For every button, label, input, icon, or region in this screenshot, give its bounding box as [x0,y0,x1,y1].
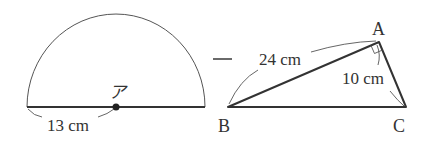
radius-brace [28,109,42,117]
vertex-c-label: C [393,116,405,136]
radius-label: 13 cm [47,116,89,135]
radius-brace-right [98,109,114,117]
vertex-a-label: A [372,19,385,39]
side-ab-label: 24 cm [259,50,301,69]
diagram-canvas: ア 13 cm 24 cm 10 cm A B C [0,0,432,142]
ac-brace-top [377,45,379,65]
side-ac-label: 10 cm [342,69,384,88]
triangle-figure: 24 cm 10 cm A B C [218,19,406,136]
semicircle-figure: ア 13 cm [27,14,205,135]
ab-brace-left [229,70,258,104]
vertex-b-label: B [218,116,230,136]
center-label: ア [109,83,128,102]
